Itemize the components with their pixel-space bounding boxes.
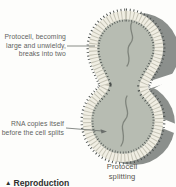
section-heading: ▲Reproduction [5, 178, 69, 187]
protocell-label-line2: large and unwieldy, [2, 42, 66, 51]
triangle-bullet-icon: ▲ [5, 179, 11, 186]
protocell-label-line3: breaks into two [2, 50, 66, 59]
rna-label-line2: before the cell splits [0, 129, 64, 138]
section-heading-text: Reproduction [13, 178, 69, 187]
figure-caption: Protocell splitting [92, 162, 152, 181]
protocell-label-line1: Protocell, becoming [2, 33, 66, 42]
textbook-figure-page: Protocell, becoming large and unwieldy, … [0, 0, 176, 187]
protocell-splitting-diagram [0, 0, 176, 187]
caption-line1: Protocell [92, 162, 152, 172]
rna-label-line1: RNA copies itself [0, 120, 64, 129]
protocell-label: Protocell, becoming large and unwieldy, … [2, 33, 66, 59]
caption-line2: splitting [92, 172, 152, 182]
rna-label: RNA copies itself before the cell splits [0, 120, 64, 137]
